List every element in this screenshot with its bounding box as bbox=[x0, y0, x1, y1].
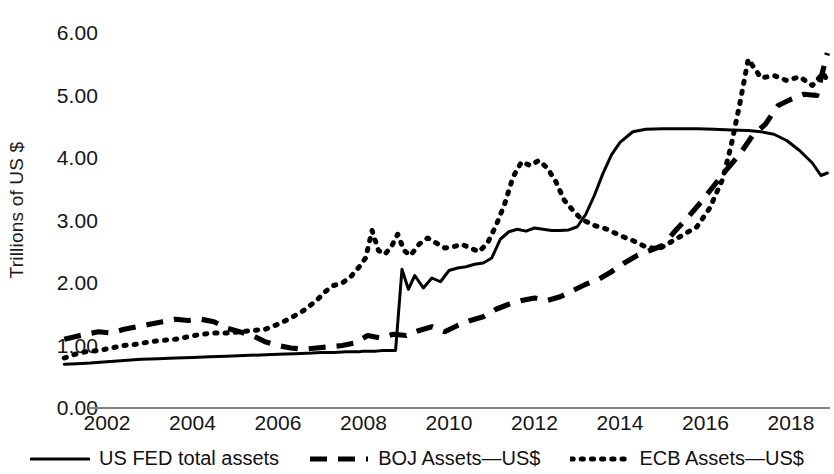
x-tick-label: 2002 bbox=[83, 411, 130, 435]
x-tick-label: 2008 bbox=[340, 411, 387, 435]
legend-label: ECB Assets—US$ bbox=[639, 447, 804, 470]
x-tick-label: 2012 bbox=[511, 411, 558, 435]
chart-legend: US FED total assetsBOJ Assets—US$ECB Ass… bbox=[0, 443, 834, 474]
legend-swatch-dotted bbox=[570, 452, 630, 466]
legend-item[interactable]: BOJ Assets—US$ bbox=[309, 447, 540, 470]
legend-item[interactable]: ECB Assets—US$ bbox=[570, 447, 804, 470]
x-tick-label: 2016 bbox=[682, 411, 729, 435]
x-tick-label: 2004 bbox=[169, 411, 216, 435]
legend-item[interactable]: US FED total assets bbox=[30, 447, 279, 470]
x-tick-label: 2006 bbox=[254, 411, 301, 435]
x-tick-label: 2014 bbox=[596, 411, 643, 435]
series-line-2 bbox=[64, 59, 827, 358]
x-axis-ticks: 200220042006200820102012201420162018 bbox=[0, 411, 834, 441]
legend-swatch-dashed bbox=[309, 452, 369, 466]
asset-chart: Trillions of US $ 0.001.002.003.004.005.… bbox=[0, 0, 834, 474]
legend-label: US FED total assets bbox=[99, 447, 279, 470]
plot-canvas bbox=[0, 0, 834, 474]
x-tick-label: 2010 bbox=[425, 411, 472, 435]
legend-swatch-solid bbox=[30, 452, 90, 466]
legend-label: BOJ Assets—US$ bbox=[378, 447, 540, 470]
x-tick-label: 2018 bbox=[767, 411, 814, 435]
